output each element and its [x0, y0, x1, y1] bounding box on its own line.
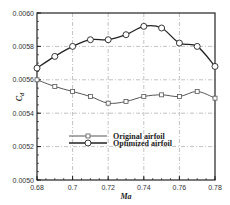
y-tick-label: 0.0060: [13, 10, 35, 17]
line-chart: 0.680.70.720.740.760.78 0.00500.00520.00…: [0, 0, 230, 205]
x-tick-label: 0.76: [173, 184, 187, 191]
square-marker: [124, 100, 128, 104]
y-tick-label: 0.0058: [13, 43, 35, 50]
circle-marker: [34, 65, 40, 71]
y-axis-label-subscript: d: [19, 92, 25, 96]
circle-marker: [105, 37, 111, 43]
square-marker: [88, 95, 92, 99]
circle-marker: [212, 63, 218, 69]
square-marker: [53, 84, 57, 88]
y-axis-label: Cd: [15, 92, 25, 101]
x-tick-label: 0.74: [137, 184, 151, 191]
circle-marker: [159, 25, 165, 31]
y-tick-label: 0.0052: [13, 143, 35, 150]
legend-circle-marker: [85, 140, 91, 146]
square-marker: [142, 95, 146, 99]
y-tick-label: 0.0056: [13, 76, 35, 83]
circle-marker: [70, 43, 76, 49]
x-tick-label: 0.78: [208, 184, 222, 191]
x-tick-label: 0.68: [30, 184, 44, 191]
y-tick-label: 0.0050: [13, 177, 35, 184]
square-marker: [177, 95, 181, 99]
legend-label: Optimized airfoil: [113, 139, 173, 148]
square-marker: [160, 93, 164, 97]
square-marker: [106, 101, 110, 105]
legend: Original airfoilOptimized airfoil: [69, 132, 173, 148]
x-tick-label: 0.7: [68, 184, 78, 191]
square-marker: [35, 78, 39, 82]
series-optimized-airfoil: [34, 23, 218, 71]
square-marker: [195, 89, 199, 93]
square-marker: [71, 89, 75, 93]
y-tick-label: 0.0054: [13, 110, 35, 117]
series-original-airfoil: [35, 78, 217, 105]
legend-square-marker: [86, 134, 90, 138]
circle-marker: [194, 43, 200, 49]
circle-marker: [123, 32, 129, 38]
circle-marker: [141, 23, 147, 29]
data-series: [34, 23, 218, 105]
circle-marker: [176, 40, 182, 46]
x-axis-label: Ma: [119, 192, 131, 201]
circle-marker: [52, 53, 58, 59]
square-marker: [213, 96, 217, 100]
circle-marker: [87, 37, 93, 43]
x-tick-label: 0.72: [101, 184, 115, 191]
